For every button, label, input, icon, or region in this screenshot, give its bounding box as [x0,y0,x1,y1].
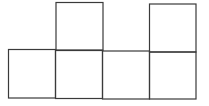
square-bottom-3 [103,51,150,99]
square-net-diagram [0,0,209,106]
square-bottom-2 [56,50,103,99]
square-bottom-4 [150,52,197,99]
square-top-2 [150,4,197,52]
square-bottom-1 [9,50,56,99]
square-top-1 [56,3,103,51]
